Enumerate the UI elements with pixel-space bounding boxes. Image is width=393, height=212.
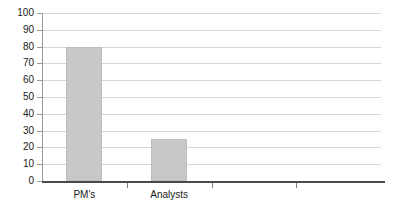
- y-axis-tick: [37, 63, 42, 64]
- gridline: [42, 13, 381, 14]
- y-axis-tick: [37, 13, 42, 14]
- y-axis-tick: [37, 164, 42, 165]
- y-axis-tick: [37, 147, 42, 148]
- y-axis-tick: [37, 97, 42, 98]
- y-axis-tick-label-text: 80: [4, 42, 34, 52]
- y-axis-tick-label-text: 30: [4, 126, 34, 136]
- y-axis-tick: [37, 131, 42, 132]
- x-axis-tick: [212, 183, 213, 188]
- y-axis-tick-label-text: 40: [4, 109, 34, 119]
- y-axis-tick-label: 10: [0, 159, 34, 169]
- y-axis-tick-label: 20: [0, 142, 34, 152]
- y-axis-tick-label-text: 60: [4, 75, 34, 85]
- y-axis-tick: [37, 47, 42, 48]
- y-axis-tick: [37, 114, 42, 115]
- y-axis-tick-label: 100: [0, 8, 34, 18]
- y-axis-tick-label: 0: [0, 176, 34, 186]
- x-axis-line: [42, 181, 385, 183]
- y-axis-tick-label: 50: [0, 92, 34, 102]
- bar: [66, 47, 102, 181]
- y-axis-tick-label-text: 90: [4, 25, 34, 35]
- x-axis-category-label: Analysts: [127, 189, 212, 201]
- y-axis-tick: [37, 80, 42, 81]
- y-axis-tick-label: 40: [0, 109, 34, 119]
- y-axis-tick-label: 90: [0, 25, 34, 35]
- x-axis-category-label: PM's: [42, 189, 127, 201]
- y-axis-tick: [37, 181, 42, 182]
- y-axis-tick: [37, 30, 42, 31]
- bar: [151, 139, 187, 181]
- y-axis-tick-label-text: 100: [4, 8, 34, 18]
- y-axis-tick-label-text: 70: [4, 58, 34, 68]
- gridline: [42, 30, 381, 31]
- y-axis-tick-label-text: 0: [4, 176, 34, 186]
- x-axis-tick: [296, 183, 297, 188]
- y-axis-tick-label: 80: [0, 42, 34, 52]
- y-axis-tick-label-text: 20: [4, 142, 34, 152]
- bar-chart: 0102030405060708090100 PM'sAnalysts: [0, 0, 393, 212]
- y-axis-tick-label: 70: [0, 58, 34, 68]
- x-axis-tick: [127, 183, 128, 188]
- y-axis-tick-label: 30: [0, 126, 34, 136]
- y-axis-tick-label-text: 50: [4, 92, 34, 102]
- y-axis-tick-label: 60: [0, 75, 34, 85]
- y-axis-line: [42, 13, 43, 181]
- y-axis-tick-label-text: 10: [4, 159, 34, 169]
